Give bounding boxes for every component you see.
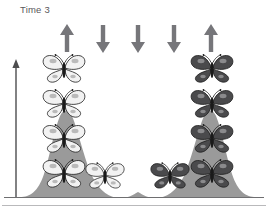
up-arrow-arrow-1 [56, 22, 78, 56]
time3-disruptive-selection-figure: Time 3 [0, 0, 268, 212]
y-axis [12, 59, 19, 197]
butterfly-light-3 [40, 124, 88, 154]
butterfly-light-4 [40, 159, 88, 189]
down-arrow-arrow-4 [163, 22, 185, 56]
up-arrow-arrow-5 [200, 22, 222, 56]
butterfly-dark-7 [188, 89, 236, 119]
butterfly-light-2 [40, 89, 88, 119]
butterfly-light-5 [83, 162, 127, 190]
butterfly-dark-6 [188, 54, 236, 84]
figure-bottom-rule [2, 205, 266, 206]
butterfly-dark-9 [188, 159, 236, 189]
butterfly-light-1 [40, 54, 88, 84]
down-arrow-arrow-2 [92, 22, 114, 56]
figure-title: Time 3 [20, 4, 50, 15]
selection-arrow-row [0, 22, 268, 56]
down-arrow-arrow-3 [127, 22, 149, 56]
butterfly-dark-8 [188, 124, 236, 154]
butterfly-dark-10 [148, 162, 192, 190]
